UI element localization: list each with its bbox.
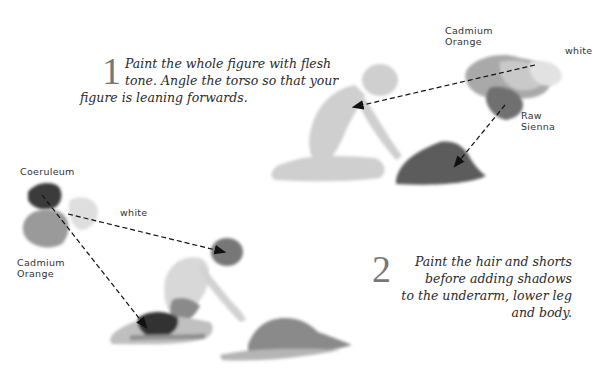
step-2-line-4: and body. <box>372 304 572 321</box>
painting-instructions-page: 1 Paint the whole figure with flesh tone… <box>0 0 610 392</box>
label-cadmium-orange-bottom: Cadmium Orange <box>17 257 65 279</box>
step-2-instruction: 2 Paint the hair and shorts before addin… <box>372 253 572 321</box>
ground-shadow-swatch-top <box>396 142 486 185</box>
label-coeruleum: Coeruleum <box>20 166 75 177</box>
step-2-line-1: Paint the hair and shorts <box>372 253 572 270</box>
label-white-bottom: white <box>120 207 148 218</box>
arrow-raw-sienna-to-ground <box>455 105 505 166</box>
step-2-line-3: to the underarm, lower leg <box>372 287 572 304</box>
step-2-number: 2 <box>372 252 391 286</box>
step-1-number: 1 <box>102 54 121 88</box>
step-1-line-2: tone. Angle the torso so that your <box>40 72 340 89</box>
label-cadmium-bottom-line1: Cadmium <box>17 257 65 268</box>
label-orange-bottom-line2: Orange <box>17 268 65 279</box>
label-cadmium-top-line1: Cadmium <box>445 25 493 36</box>
label-raw-sienna: Raw Sienna <box>521 110 555 132</box>
figure-with-shadows <box>110 238 246 344</box>
label-raw-line1: Raw <box>521 110 555 121</box>
label-white-top: white <box>565 45 593 56</box>
arrow-white-to-head <box>68 214 224 252</box>
step-1-instruction: 1 Paint the whole figure with flesh tone… <box>40 55 340 106</box>
step-2-line-2: before adding shadows <box>372 270 572 287</box>
step-1-line-1: Paint the whole figure with flesh <box>40 55 340 72</box>
palette-swatch-white-bottom <box>69 197 98 230</box>
step-1-line-3: figure is leaning forwards. <box>40 89 340 106</box>
label-sienna-line2: Sienna <box>521 121 555 132</box>
ground-shadow-swatch-bottom <box>220 318 352 361</box>
label-orange-top-line2: Orange <box>445 36 493 47</box>
palette-swatch-coeruleum <box>28 183 61 210</box>
label-cadmium-orange-top: Cadmium Orange <box>445 25 493 47</box>
palette-swatch-cadmium-orange-bottom <box>23 209 69 247</box>
